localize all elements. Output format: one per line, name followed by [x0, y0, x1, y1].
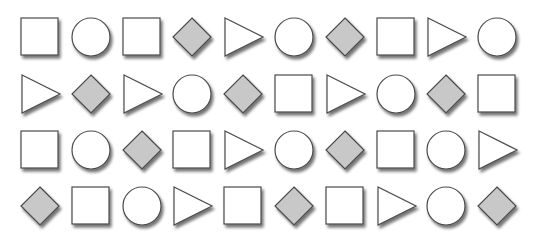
triangle-icon — [170, 184, 214, 228]
diamond-icon — [323, 15, 367, 59]
diamond-icon — [475, 184, 519, 228]
square-icon — [120, 15, 164, 59]
triangle-icon — [424, 15, 468, 59]
circle-icon — [272, 15, 316, 59]
diamond-icon — [221, 72, 265, 116]
square-icon — [374, 128, 418, 172]
diamond-icon — [69, 72, 113, 116]
circle-icon — [170, 72, 214, 116]
circle-icon — [272, 128, 316, 172]
square-icon — [69, 184, 113, 228]
square-icon — [475, 72, 519, 116]
triangle-icon — [323, 72, 367, 116]
circle-icon — [424, 128, 468, 172]
diamond-icon — [120, 128, 164, 172]
square-icon — [170, 128, 214, 172]
triangle-icon — [120, 72, 164, 116]
square-icon — [323, 184, 367, 228]
diamond-icon — [323, 128, 367, 172]
square-icon — [272, 72, 316, 116]
circle-icon — [120, 184, 164, 228]
circle-icon — [69, 128, 113, 172]
shape-grid — [0, 0, 536, 246]
circle-icon — [475, 15, 519, 59]
square-icon — [18, 15, 62, 59]
square-icon — [221, 184, 265, 228]
diamond-icon — [272, 184, 316, 228]
circle-icon — [374, 72, 418, 116]
circle-icon — [69, 15, 113, 59]
square-icon — [374, 15, 418, 59]
triangle-icon — [374, 184, 418, 228]
triangle-icon — [475, 128, 519, 172]
diamond-icon — [424, 72, 468, 116]
triangle-icon — [221, 15, 265, 59]
circle-icon — [424, 184, 468, 228]
square-icon — [18, 128, 62, 172]
triangle-icon — [221, 128, 265, 172]
diamond-icon — [18, 184, 62, 228]
diamond-icon — [170, 15, 214, 59]
triangle-icon — [18, 72, 62, 116]
